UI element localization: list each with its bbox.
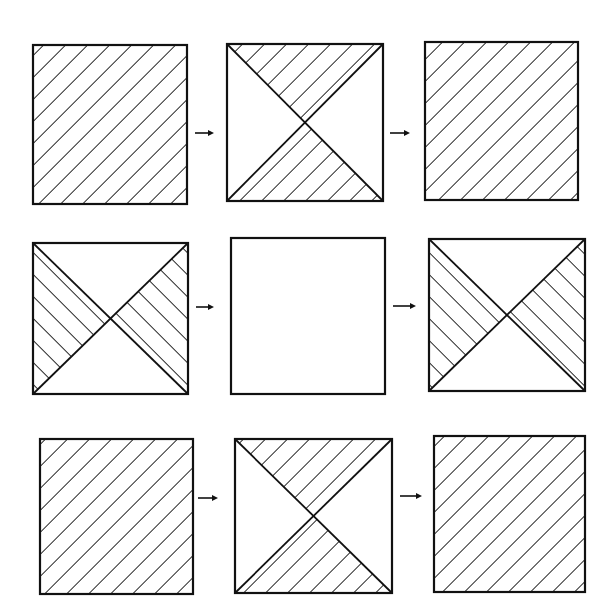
hatched-region bbox=[40, 439, 193, 594]
tile-r2-c2 bbox=[231, 238, 385, 394]
tile-r1-c1 bbox=[33, 45, 187, 204]
hatched-region bbox=[434, 436, 585, 592]
hatched-top-triangle bbox=[227, 44, 383, 123]
hatched-top-triangle bbox=[235, 439, 392, 516]
tile-border bbox=[231, 238, 385, 394]
hatched-region bbox=[33, 45, 187, 204]
tiles-layer bbox=[33, 42, 585, 594]
hatched-region bbox=[425, 42, 578, 200]
tile-r1-c3 bbox=[425, 42, 578, 200]
hatched-left-triangle bbox=[33, 243, 111, 394]
tile-r2-c3 bbox=[429, 239, 585, 391]
tile-r2-c1 bbox=[33, 243, 188, 394]
tile-r1-c2 bbox=[227, 44, 383, 201]
arrow-right-icon bbox=[390, 130, 410, 136]
hatched-bottom-triangle bbox=[235, 516, 392, 593]
tile-r3-c1 bbox=[40, 439, 193, 594]
transformation-diagram bbox=[0, 0, 613, 615]
hatched-bottom-triangle bbox=[227, 123, 383, 202]
hatched-right-triangle bbox=[507, 239, 585, 391]
hatched-right-triangle bbox=[111, 243, 189, 394]
hatched-left-triangle bbox=[429, 239, 507, 391]
arrow-right-icon bbox=[393, 303, 416, 309]
arrow-right-icon bbox=[196, 304, 214, 310]
arrow-right-icon bbox=[195, 130, 214, 136]
figure-canvas: 3x3 grid of square tiles showing pattern… bbox=[0, 0, 613, 615]
tile-r3-c2 bbox=[235, 439, 392, 593]
arrow-right-icon bbox=[400, 493, 422, 499]
arrow-right-icon bbox=[198, 495, 218, 501]
tile-r3-c3 bbox=[434, 436, 585, 592]
